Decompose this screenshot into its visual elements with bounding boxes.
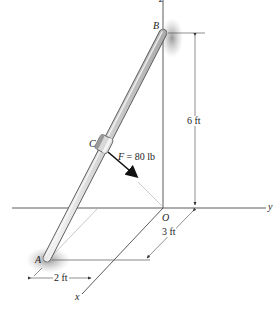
force-value: 80 lb (135, 151, 155, 162)
point-label-c: C (89, 139, 96, 149)
axis-label-y: y (268, 202, 272, 212)
dim-label-3ft: 3 ft (162, 227, 176, 237)
point-label-o: O (162, 213, 169, 223)
force-label: F = 80 lb (118, 152, 155, 162)
statics-diagram: z B C F = 80 lb 6 ft O y 3 ft A 2 ft x (0, 0, 278, 314)
dim-label-2ft: 2 ft (53, 273, 69, 283)
point-label-a: A (35, 255, 41, 265)
guide-line-force-to-o (138, 182, 163, 207)
force-symbol: F (118, 151, 124, 162)
axis-label-x: x (75, 292, 79, 302)
point-label-b: B (153, 21, 159, 31)
dim-label-6ft: 6 ft (187, 116, 201, 126)
force-equals: = (127, 151, 133, 162)
x-axis (82, 208, 163, 294)
axis-label-z: z (159, 0, 163, 4)
